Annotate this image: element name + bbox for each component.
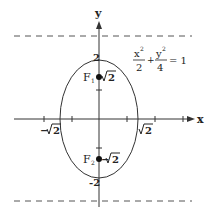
y-axis-label: y (94, 7, 102, 20)
svg-text:= 1: = 1 (169, 55, 187, 66)
svg-text:2: 2 (162, 45, 166, 52)
svg-text:2: 2 (53, 125, 60, 136)
svg-text:2: 2 (136, 62, 142, 73)
focus-label-f2: F 2 − 2 (83, 153, 120, 166)
x-axis-label: x (197, 113, 204, 126)
svg-text:F: F (83, 71, 91, 84)
svg-text:2: 2 (145, 125, 152, 136)
left-intercept-label: − 2 (40, 124, 61, 136)
svg-text:+: + (147, 55, 155, 65)
svg-text:2: 2 (140, 45, 144, 52)
right-intercept-label: 2 (139, 124, 153, 136)
ellipse-equation: x 2 2 + y 2 4 = 1 (133, 45, 187, 73)
svg-text:2: 2 (112, 154, 119, 165)
y-axis-arrow-icon (96, 21, 102, 29)
svg-text:2: 2 (91, 159, 95, 166)
svg-text:2: 2 (108, 72, 115, 83)
svg-text:F: F (83, 153, 91, 166)
svg-text:y: y (155, 48, 162, 59)
top-intercept-label: 2 (93, 52, 100, 63)
focus-point-f1 (96, 74, 102, 80)
x-axis-arrow-icon (187, 116, 195, 122)
bottom-intercept-label: -2 (89, 177, 100, 188)
svg-text:4: 4 (157, 62, 163, 73)
ellipse-diagram: y x 2 -2 − 2 2 F 1 2 F 2 − 2 x 2 2 + y 2… (0, 0, 218, 211)
svg-text:1: 1 (91, 77, 95, 84)
